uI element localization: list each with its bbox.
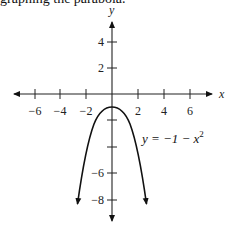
y-axis: 4 2 −6 −8 y bbox=[91, 3, 117, 221]
x-tick-label: −4 bbox=[54, 104, 67, 118]
equation-exponent: 2 bbox=[199, 129, 204, 139]
parabola-chart: −6 −4 −2 2 4 6 x 4 2 −6 −8 y y = −1 − x2 bbox=[0, 0, 230, 226]
x-tick-label: 2 bbox=[135, 104, 141, 118]
x-axis: −6 −4 −2 2 4 6 x bbox=[14, 87, 225, 118]
svg-text:y = −1 − x2: y = −1 − x2 bbox=[140, 129, 204, 146]
equation-text: y = −1 − x bbox=[140, 131, 200, 146]
x-tick-label: 4 bbox=[161, 104, 167, 118]
equation-label: y = −1 − x2 bbox=[140, 129, 204, 146]
y-tick-label: −6 bbox=[91, 166, 104, 180]
y-tick-label: −8 bbox=[91, 193, 104, 207]
y-axis-label: y bbox=[108, 3, 115, 17]
y-tick-label: 2 bbox=[98, 61, 104, 75]
x-axis-label: x bbox=[218, 87, 225, 101]
x-tick-label: −2 bbox=[80, 104, 93, 118]
x-tick-label: −6 bbox=[29, 104, 42, 118]
x-tick-label: 6 bbox=[187, 104, 193, 118]
y-tick-label: 4 bbox=[98, 35, 104, 49]
